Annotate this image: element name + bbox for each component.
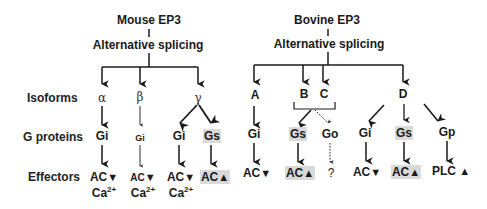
bovine-gprotein-gi-a: Gi [248, 127, 261, 141]
mouse-isoform-alpha: α [98, 91, 106, 105]
bovine-isoform-a: A [251, 88, 260, 102]
arrow-down-icon: ▼ [107, 171, 118, 183]
calcium-label: Ca [131, 186, 146, 200]
bovine-effector-bc-gs: AC▲ [285, 166, 315, 180]
mouse-process: Alternative splicing [93, 38, 204, 52]
bovine-effector-bc-go-unknown: ? [328, 166, 335, 180]
calcium-charge: 2+ [146, 185, 155, 194]
mouse-effector-gamma-gi: AC▼ [167, 170, 195, 184]
bovine-isoform-c: C [320, 87, 329, 101]
bovine-gprotein-gp-d: Gp [439, 125, 456, 139]
mouse-calcium-gamma: Ca2+ [169, 186, 193, 200]
bovine-gprotein-gs-d: Gs [395, 126, 413, 140]
mouse-calcium-beta: Ca2+ [131, 186, 155, 200]
ac-label: AC [353, 165, 370, 179]
mouse-gprotein-gi-alpha: Gi [96, 129, 109, 143]
ac-label: AC [90, 170, 107, 184]
bovine-isoform-b: B [300, 87, 309, 101]
ac-label: AC [167, 170, 184, 184]
mouse-title: Mouse EP3 [117, 13, 181, 27]
calcium-charge: 2+ [184, 185, 193, 194]
arrow-down-icon: ▼ [145, 171, 156, 183]
gs-highlight: Gs [203, 129, 221, 143]
arrow-down-icon: ▼ [370, 166, 381, 178]
mouse-isoform-beta: β [137, 90, 144, 104]
ac-label: AC [243, 166, 260, 180]
arrow-up-icon: ▲ [409, 166, 420, 178]
row-label-effectors: Effectors [28, 170, 80, 184]
ac-up-highlight: AC▲ [285, 166, 315, 180]
arrow-down-icon: ▼ [184, 171, 195, 183]
bovine-effector-d-gp: PLC ▲ [432, 164, 470, 178]
ac-label: AC [286, 166, 303, 180]
mouse-gprotein-gi-beta: Gi [135, 131, 145, 145]
arrow-up-icon: ▲ [218, 171, 229, 183]
bovine-gprotein-go-bc: Go [322, 127, 339, 141]
arrow-up-icon: ▲ [459, 165, 470, 177]
mouse-effector-alpha: AC▼ [90, 170, 118, 184]
ac-label: AC [392, 165, 409, 179]
row-label-g-proteins: G proteins [23, 130, 83, 144]
bovine-gprotein-gs-bc: Gs [289, 127, 307, 141]
bovine-process: Alternative splicing [274, 37, 385, 51]
mouse-effector-beta: AC▼ [130, 170, 155, 185]
ac-label: AC [201, 170, 218, 184]
calcium-charge: 2+ [107, 185, 116, 194]
gs-highlight: Gs [289, 127, 307, 141]
ac-up-highlight: AC▲ [200, 170, 230, 184]
calcium-label: Ca [92, 186, 107, 200]
calcium-label: Ca [169, 186, 184, 200]
bovine-isoform-d: D [399, 87, 408, 101]
arrow-down-icon: ▼ [260, 167, 271, 179]
arrow-up-icon: ▲ [303, 167, 314, 179]
plc-label: PLC [432, 164, 456, 178]
mouse-gprotein-gi-gamma: Gi [173, 129, 186, 143]
mouse-isoform-gamma: γ [194, 91, 201, 105]
mouse-effector-gamma-gs: AC▲ [200, 170, 230, 184]
bovine-effector-a: AC▼ [243, 166, 271, 180]
ac-label: AC [130, 172, 144, 183]
bovine-effector-d-gs: AC▲ [391, 165, 421, 179]
bovine-title: Bovine EP3 [294, 13, 360, 27]
mouse-calcium-alpha: Ca2+ [92, 186, 116, 200]
gs-highlight: Gs [395, 126, 413, 140]
bovine-effector-d-gi: AC▼ [353, 165, 381, 179]
bovine-gprotein-gi-d: Gi [359, 126, 372, 140]
ac-up-highlight: AC▲ [391, 165, 421, 179]
mouse-gprotein-gs-gamma: Gs [203, 129, 221, 143]
row-label-isoforms: Isoforms [27, 91, 78, 105]
